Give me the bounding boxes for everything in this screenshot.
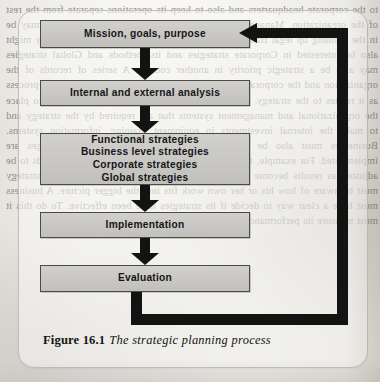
flow-box-analysis-label: Internal and external analysis <box>70 87 220 100</box>
flow-box-evaluation: Evaluation <box>40 265 250 292</box>
scanned-book-page: to the corporate headquarters and also t… <box>0 0 380 382</box>
flow-box-analysis: Internal and external analysis <box>40 80 250 106</box>
flow-box-implementation-label: Implementation <box>106 219 185 232</box>
flow-box-evaluation-label: Evaluation <box>118 272 172 285</box>
flow-box-strategies-label: Functional strategies Business level str… <box>81 134 209 184</box>
flow-box-mission-label: Mission, goals, purpose <box>84 28 206 41</box>
figure-frame <box>18 10 368 368</box>
figure-caption: Figure 16.1The strategic planning proces… <box>43 333 271 348</box>
figure-caption-label: Figure 16.1 <box>43 333 105 347</box>
flow-box-strategies: Functional strategies Business level str… <box>40 133 250 185</box>
figure-caption-text: The strategic planning process <box>109 333 271 347</box>
flow-box-implementation: Implementation <box>40 212 250 238</box>
flow-box-mission: Mission, goals, purpose <box>40 20 250 48</box>
